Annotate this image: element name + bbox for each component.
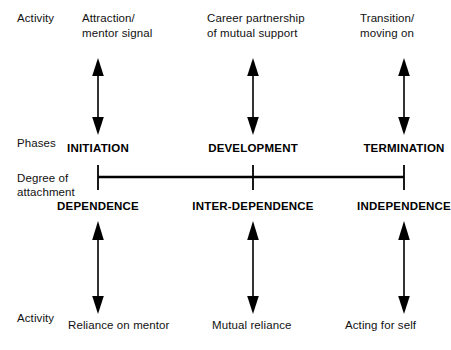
- arrow-top-development: [247, 58, 259, 135]
- attachment-label-inter-dependence: INTER-DEPENDENCE: [192, 200, 313, 212]
- phase-label-termination: TERMINATION: [363, 142, 444, 154]
- arrow-top-initiation: [92, 58, 104, 135]
- activity-top-termination: Transition/ moving on: [360, 11, 414, 40]
- arrow-top-termination: [398, 58, 410, 135]
- attachment-label-dependence: DEPENDENCE: [57, 200, 139, 212]
- arrow-bottom-development: [247, 221, 259, 314]
- row-label-phases: Phases: [17, 136, 56, 150]
- arrow-bottom-termination: [398, 221, 410, 314]
- activity-bottom-acting-for-self: Acting for self: [345, 318, 416, 333]
- activity-bottom-mutual-reliance: Mutual reliance: [212, 318, 291, 333]
- activity-bottom-reliance-on-mentor: Reliance on mentor: [68, 318, 170, 333]
- activity-top-initiation: Attraction/ mentor signal: [82, 11, 152, 40]
- attachment-scale-axis: [98, 165, 404, 190]
- row-label-activity-top: Activity: [17, 11, 54, 25]
- activity-top-development: Career partnership of mutual support: [207, 11, 305, 40]
- arrow-bottom-initiation: [92, 221, 104, 314]
- attachment-label-independence: INDEPENDENCE: [357, 200, 451, 212]
- phase-label-development: DEVELOPMENT: [208, 142, 298, 154]
- row-label-degree-of-attachment: Degree of attachment: [17, 171, 75, 199]
- phase-label-initiation: INITIATION: [67, 142, 129, 154]
- row-label-activity-bottom: Activity: [17, 311, 54, 325]
